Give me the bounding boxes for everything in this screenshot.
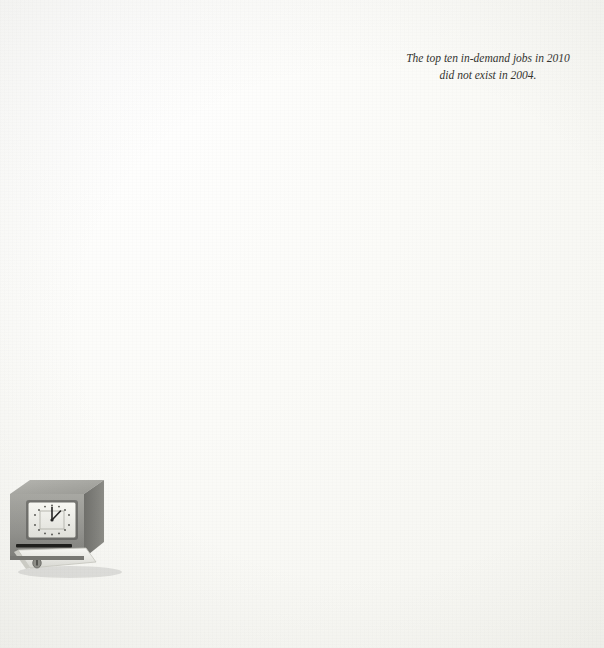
annotation-line-2: did not exist in 2004. <box>382 67 594 84</box>
chart-annotation: The top ten in-demand jobs in 2010 did n… <box>382 50 594 83</box>
annotation-line-1: The top ten in-demand jobs in 2010 <box>382 50 594 67</box>
punch-time-clock-illustration <box>4 468 140 580</box>
time-clock-icon <box>4 468 140 580</box>
infographic-canvas: The top ten in-demand jobs in 2010 did n… <box>0 0 604 648</box>
